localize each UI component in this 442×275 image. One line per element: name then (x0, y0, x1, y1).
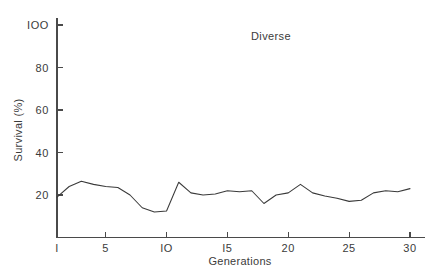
x-tick-label-25: 25 (342, 242, 355, 254)
x-tick-label-10: IO (160, 242, 173, 254)
chart-tick-labels: 20406080IOOI5IOI5202530 (27, 19, 417, 254)
y-tick-label-60: 60 (36, 104, 49, 116)
chart-axes (57, 18, 425, 238)
chart-ticks (57, 25, 410, 238)
chart-figure: 20406080IOOI5IOI5202530 Diverse Generati… (0, 0, 442, 275)
x-tick-label-15: I5 (222, 242, 232, 254)
x-tick-label-5: 5 (102, 242, 109, 254)
survival-data-line (57, 181, 410, 212)
y-tick-label-40: 40 (36, 147, 49, 159)
y-tick-label-100: IOO (27, 19, 49, 31)
chart-title: Diverse (251, 30, 291, 42)
x-tick-label-1: I (55, 242, 59, 254)
survival-line-chart: 20406080IOOI5IOI5202530 Diverse Generati… (0, 0, 442, 275)
x-tick-label-20: 20 (282, 242, 295, 254)
y-axis-title: Survival (%) (12, 99, 24, 162)
y-tick-label-80: 80 (36, 62, 49, 74)
x-axis-title: Generations (208, 255, 271, 267)
y-tick-label-20: 20 (36, 189, 49, 201)
x-tick-label-30: 30 (403, 242, 416, 254)
